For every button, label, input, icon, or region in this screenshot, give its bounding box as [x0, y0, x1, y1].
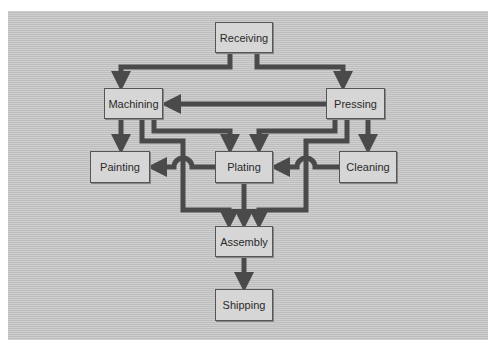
- node-label: Receiving: [220, 32, 268, 44]
- node-label: Pressing: [334, 98, 377, 110]
- node-machining: Machining: [104, 88, 163, 119]
- node-shipping: Shipping: [215, 289, 273, 321]
- arrow-cleaning-to-plating: [279, 158, 339, 167]
- arrow-receiving-to-pressing: [257, 53, 343, 82]
- arrow-receiving-to-machining: [121, 53, 230, 82]
- node-label: Painting: [100, 161, 140, 173]
- node-label: Shipping: [223, 299, 266, 311]
- node-label: Plating: [227, 161, 261, 173]
- node-painting: Painting: [90, 151, 150, 183]
- node-plating: Plating: [215, 151, 273, 183]
- node-receiving: Receiving: [215, 22, 273, 53]
- node-assembly: Assembly: [215, 226, 273, 257]
- node-label: Cleaning: [346, 161, 389, 173]
- node-pressing: Pressing: [326, 88, 385, 119]
- node-cleaning: Cleaning: [339, 151, 397, 183]
- node-label: Machining: [108, 98, 158, 110]
- node-label: Assembly: [220, 236, 268, 248]
